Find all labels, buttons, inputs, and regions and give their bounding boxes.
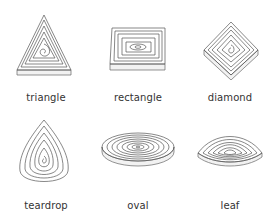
oval-coil-icon <box>92 111 184 191</box>
label-teardrop: teardrop <box>0 200 92 211</box>
label-leaf: leaf <box>184 200 276 211</box>
triangle-coil-icon <box>0 0 92 80</box>
teardrop-coil-icon <box>0 111 92 191</box>
rectangle-coil-icon <box>92 0 184 80</box>
label-diamond: diamond <box>184 92 276 103</box>
shape-cell-rectangle: rectangle <box>92 0 184 111</box>
shape-cell-oval: oval <box>92 111 184 222</box>
label-rectangle: rectangle <box>92 92 184 103</box>
shape-cell-triangle: triangle <box>0 0 92 111</box>
diamond-coil-icon <box>184 0 276 80</box>
leaf-coil-icon <box>184 111 276 191</box>
shape-cell-diamond: diamond <box>184 0 276 111</box>
shape-cell-leaf: leaf <box>184 111 276 222</box>
label-triangle: triangle <box>0 92 92 103</box>
shape-cell-teardrop: teardrop <box>0 111 92 222</box>
label-oval: oval <box>92 200 184 211</box>
